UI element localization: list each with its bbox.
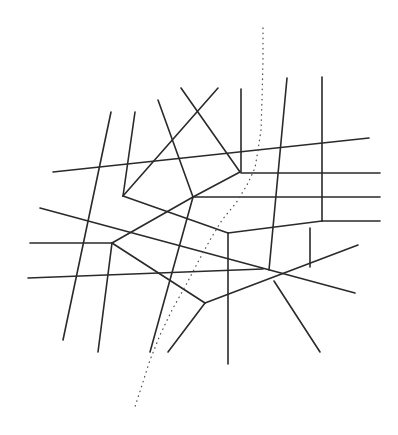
line-segment <box>158 100 193 197</box>
network-segments <box>28 77 380 364</box>
line-segment <box>98 243 112 352</box>
line-segment <box>40 208 355 293</box>
line-segment <box>274 281 320 352</box>
line-segment <box>181 88 240 172</box>
line-segment <box>228 221 322 233</box>
line-network-diagram <box>0 0 398 435</box>
line-segment <box>123 88 218 196</box>
line-segment <box>112 197 193 243</box>
line-segment <box>269 78 287 270</box>
line-segment <box>193 172 240 197</box>
line-segment <box>168 303 205 352</box>
